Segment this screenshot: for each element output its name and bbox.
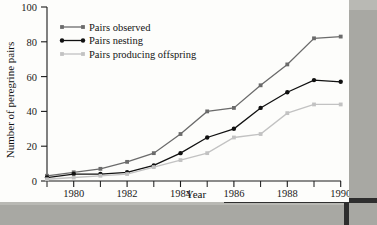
legend-label-1: Pairs observed — [89, 22, 151, 33]
data-point — [99, 167, 103, 171]
data-point — [72, 172, 76, 176]
x-tick-1984: 1984 — [170, 188, 192, 199]
data-point — [232, 127, 236, 131]
data-point — [232, 136, 236, 140]
x-axis-ticks — [47, 181, 341, 187]
chart-svg: Number of peregrine pairs Year 0 20 40 6… — [0, 0, 349, 202]
series-2 — [45, 78, 343, 180]
series-3 — [45, 103, 342, 182]
data-point — [179, 158, 183, 162]
legend-swatch-marker — [60, 52, 64, 56]
data-point — [232, 106, 236, 110]
data-point — [178, 151, 182, 155]
data-point — [285, 111, 289, 115]
series-line — [47, 80, 341, 177]
legend-swatch-marker — [60, 25, 64, 29]
data-point — [285, 90, 289, 94]
legend-swatch-marker — [81, 38, 85, 42]
y-axis-title: Number of peregrine pairs — [4, 42, 16, 158]
page-shadow-right — [349, 10, 377, 225]
legend-label-2: Pairs nesting — [89, 35, 144, 46]
data-point — [285, 63, 289, 67]
data-point — [339, 103, 343, 107]
y-tick-20: 20 — [27, 141, 38, 152]
legend-swatch-marker — [60, 38, 64, 42]
series-line — [47, 104, 341, 179]
data-point — [339, 35, 343, 39]
data-point — [312, 78, 316, 82]
y-axis-ticks — [41, 7, 47, 181]
y-tick-40: 40 — [27, 106, 38, 117]
y-tick-60: 60 — [27, 72, 38, 83]
data-point — [125, 172, 129, 176]
data-point — [99, 174, 103, 178]
chart-legend: Pairs observedPairs nestingPairs produci… — [60, 22, 197, 60]
legend-swatch-marker — [81, 25, 85, 29]
page-shadow-bottom — [0, 205, 377, 225]
data-point — [259, 132, 263, 136]
data-point — [312, 36, 316, 40]
data-point — [179, 132, 183, 136]
x-tick-1982: 1982 — [117, 188, 138, 199]
data-point — [259, 83, 263, 87]
paper-background: Number of peregrine pairs Year 0 20 40 6… — [0, 0, 349, 202]
y-tick-0: 0 — [32, 176, 37, 187]
data-point — [339, 80, 343, 84]
data-point — [205, 135, 209, 139]
y-tick-80: 80 — [27, 37, 38, 48]
line-chart-figure: Number of peregrine pairs Year 0 20 40 6… — [0, 0, 349, 202]
data-point — [258, 106, 262, 110]
x-tick-1990: 1990 — [330, 188, 349, 199]
x-tick-1986: 1986 — [223, 188, 244, 199]
data-point — [125, 160, 129, 164]
x-tick-1988: 1988 — [277, 188, 298, 199]
data-point — [152, 151, 156, 155]
x-tick-1980: 1980 — [63, 188, 84, 199]
y-axis-tick-labels: 0 20 40 60 80 100 — [21, 2, 37, 187]
legend-swatch-marker — [81, 52, 85, 56]
legend-label-3: Pairs producing offspring — [89, 49, 197, 60]
y-tick-100: 100 — [21, 2, 37, 13]
data-point — [152, 165, 156, 169]
data-point — [205, 151, 209, 155]
data-point — [312, 103, 316, 107]
data-point — [205, 110, 209, 114]
data-point — [72, 176, 76, 180]
data-point — [45, 177, 49, 181]
